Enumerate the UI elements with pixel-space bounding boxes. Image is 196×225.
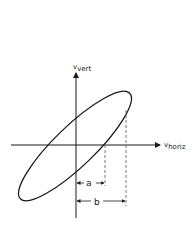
horizontal-axis-label: vhoriz (164, 141, 186, 151)
vertical-axis-label-sub: vert (77, 65, 91, 73)
dimension-b-label: b (94, 197, 100, 207)
lissajous-diagram: a b vvert vhoriz (0, 0, 196, 225)
lissajous-ellipse (6, 79, 143, 213)
horizontal-axis-label-sub: horiz (168, 143, 186, 151)
vertical-axis-label: vvert (73, 63, 91, 73)
dimension-a-label: a (86, 178, 92, 188)
